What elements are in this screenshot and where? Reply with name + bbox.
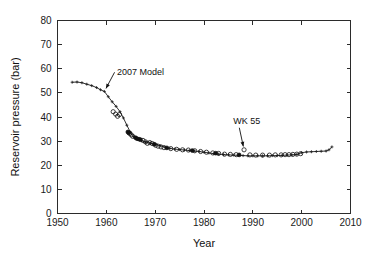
data-point-filled <box>152 142 156 146</box>
data-point-filled <box>237 153 241 157</box>
data-point-filled <box>214 151 218 155</box>
y-tick-label: 80 <box>40 15 52 26</box>
reservoir-pressure-chart: 1950196019701980199020002010 01020304050… <box>0 0 378 264</box>
chart-figure: 1950196019701980199020002010 01020304050… <box>0 0 378 264</box>
data-point-filled <box>139 138 143 142</box>
annotation-wk55-label: WK 55 <box>233 116 260 126</box>
y-tick-label: 20 <box>40 160 52 171</box>
annotation-2007-model-label: 2007 Model <box>117 67 164 77</box>
x-tick-label: 2010 <box>339 217 362 228</box>
y-tick-label: 40 <box>40 112 52 123</box>
y-tick-label: 60 <box>40 63 52 74</box>
data-point-filled <box>127 131 131 135</box>
x-tick-label: 1980 <box>193 217 216 228</box>
data-point-filled <box>165 146 169 150</box>
y-tick-label: 50 <box>40 87 52 98</box>
y-tick-label: 70 <box>40 39 52 50</box>
x-tick-label: 1960 <box>95 217 118 228</box>
x-tick-label: 1990 <box>242 217 265 228</box>
y-axis-title: Reservoir pressure (bar) <box>9 57 21 176</box>
x-tick-label: 1970 <box>144 217 167 228</box>
data-point-filled <box>190 149 194 153</box>
y-tick-label: 0 <box>46 208 52 219</box>
y-tick-label: 30 <box>40 136 52 147</box>
y-tick-label: 10 <box>40 184 52 195</box>
x-tick-label: 2000 <box>291 217 314 228</box>
y-axis-tick-labels: 01020304050607080 <box>40 15 52 219</box>
x-axis-title: Year <box>193 237 216 249</box>
